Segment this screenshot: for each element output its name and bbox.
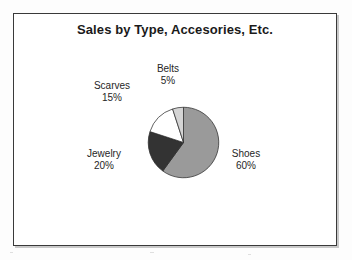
slice-label-shoes: Shoes 60% [222,148,270,172]
chart-title: Sales by Type, Accesories, Etc. [13,22,337,37]
slice-label-belts-name: Belts [143,63,193,75]
pie-chart [146,105,221,180]
slice-label-scarves-percent: 15% [84,92,140,104]
slice-label-belts: Belts 5% [143,63,193,87]
slice-label-scarves-name: Scarves [84,80,140,92]
slice-label-belts-percent: 5% [143,75,193,87]
slice-label-scarves: Scarves 15% [84,80,140,104]
slice-label-shoes-name: Shoes [222,148,270,160]
slice-label-jewelry: Jewelry 20% [77,148,131,172]
slice-label-jewelry-name: Jewelry [77,148,131,160]
slice-label-jewelry-percent: 20% [77,160,131,172]
scanned-page: Sales by Type, Accesories, Etc. Belts 5%… [0,0,352,260]
slice-label-shoes-percent: 60% [222,160,270,172]
